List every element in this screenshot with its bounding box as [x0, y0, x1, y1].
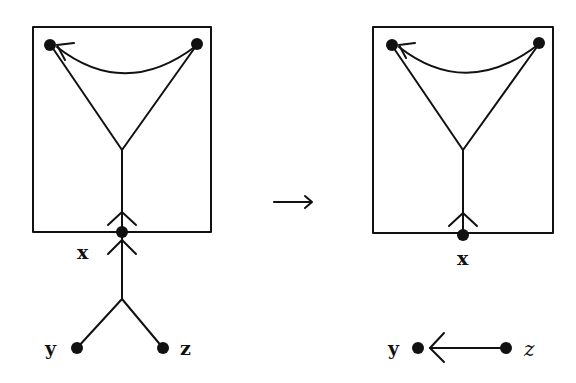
left-label-y: y — [44, 337, 57, 359]
left-node-z — [157, 342, 169, 354]
right-node-z — [500, 342, 512, 354]
left-node-top-left — [44, 39, 56, 51]
diagram-canvas: x y z x y z — [0, 0, 576, 383]
right-node-top-right — [533, 37, 545, 49]
right-node-top-left — [386, 39, 398, 51]
left-panel — [33, 27, 211, 348]
right-label-x: x — [457, 247, 469, 269]
left-label-z: z — [180, 337, 191, 359]
left-label-x: x — [77, 241, 89, 263]
left-lower-fork-z — [122, 299, 163, 348]
right-label-y: y — [387, 337, 400, 359]
left-fork-edge-right — [122, 46, 196, 150]
right-fork-edge-left — [393, 47, 463, 150]
right-node-x — [457, 229, 469, 241]
right-fork-edge-right — [463, 44, 539, 150]
left-node-y — [71, 342, 83, 354]
right-label-z: z — [523, 337, 535, 361]
left-node-x — [116, 226, 128, 238]
left-node-top-right — [191, 38, 203, 50]
right-node-y — [412, 342, 424, 354]
left-curved-edge — [57, 46, 196, 73]
transition-arrow-icon — [274, 196, 312, 208]
right-panel — [373, 27, 553, 362]
left-lower-fork-y — [77, 299, 122, 348]
right-curved-edge — [399, 44, 539, 73]
left-fork-edge-left — [52, 47, 122, 150]
